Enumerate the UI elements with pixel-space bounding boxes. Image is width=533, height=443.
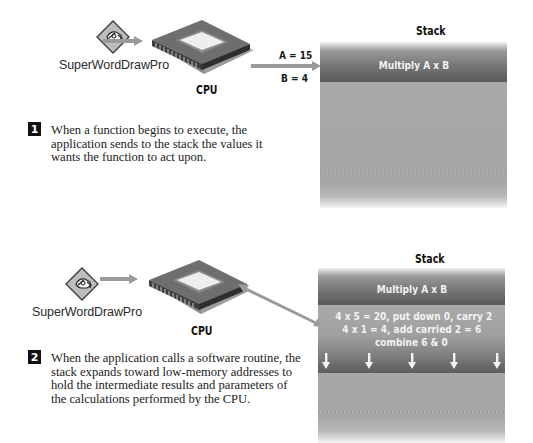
cpu-chip-icon (145, 252, 253, 320)
step-description: When the application calls a software ro… (51, 352, 301, 406)
value-b-label: B = 4 (281, 72, 308, 85)
stack-title: Stack (415, 252, 445, 266)
step-1-panel: SuperWordDrawPro CPU A = 15 B = 4 Stack (0, 0, 533, 220)
stack-top-frame: Multiply A x B (318, 268, 505, 305)
stack: Multiply A x B 4 x 5 = 20, put down 0, c… (318, 268, 505, 443)
app-icon (65, 267, 99, 301)
stack-boundary-line (320, 172, 507, 174)
stack-top-frame: Multiply A x B (320, 42, 507, 82)
arrow-down-icon (450, 353, 458, 369)
arrow-down-icon (365, 353, 373, 369)
arrow-down-icon (493, 353, 501, 369)
stack-intermediate-results: 4 x 5 = 20, put down 0, carry 2 4 x 1 = … (318, 305, 505, 373)
stack-frame-label: Multiply A x B (378, 53, 448, 72)
stack-growth-arrows (318, 352, 505, 370)
step-number-badge: 1 (28, 122, 41, 136)
arrow-right-icon (100, 274, 138, 284)
arrow-bidirectional-icon (238, 284, 324, 328)
arrow-right-icon (251, 61, 321, 71)
app-label: SuperWordDrawPro (32, 305, 142, 319)
step-2-panel: SuperWordDrawPro CPU S (0, 232, 533, 443)
cpu-label: CPU (196, 83, 217, 97)
arrow-right-icon (103, 36, 143, 46)
stack: Multiply A x B (320, 42, 507, 208)
operation-step: combine 6 & 0 (375, 337, 448, 349)
arrow-down-icon (322, 353, 330, 369)
cpu-chip-icon (148, 12, 256, 80)
step-number-badge: 2 (28, 350, 41, 364)
step-description: When a function begins to execute, the a… (51, 124, 286, 165)
stack-title: Stack (416, 24, 446, 38)
stack-boundary-line (318, 411, 505, 413)
stack-frame-label: Multiply A x B (376, 277, 446, 296)
cpu-label: CPU (191, 324, 212, 338)
arrow-down-icon (408, 353, 416, 369)
